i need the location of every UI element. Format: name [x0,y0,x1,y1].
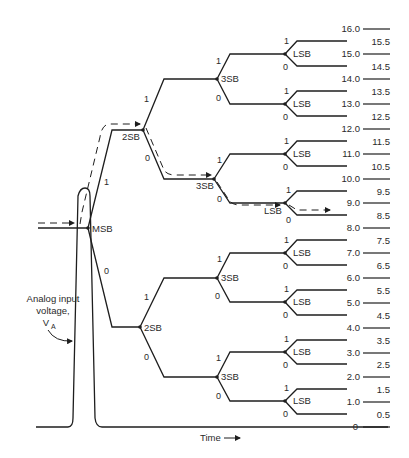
svg-text:1: 1 [284,383,289,393]
svg-text:11.5: 11.5 [372,136,390,147]
branch-labels: 1 0 1 0 1 0 1 0 1 0 1 0 1 0 1 0 1 0 1 0 … [104,36,291,419]
svg-text:9.5: 9.5 [377,186,390,197]
svg-text:1.0: 1.0 [347,396,360,407]
svg-text:1: 1 [284,136,289,146]
svg-text:16.0: 16.0 [342,23,361,34]
svg-text:13.5: 13.5 [372,86,391,97]
svg-text:0: 0 [283,360,288,370]
lsb-label: LSB [293,48,311,59]
svg-text:11.0: 11.0 [342,148,360,159]
svg-text:0: 0 [283,409,288,419]
svg-text:15.0: 15.0 [342,48,361,59]
node-dots [86,52,287,403]
svg-text:6.5: 6.5 [377,260,390,271]
svg-text:0: 0 [283,62,288,72]
svg-text:0.5: 0.5 [377,409,390,420]
lsb-label: LSB [293,148,311,159]
svg-text:0: 0 [286,215,291,225]
svg-text:0: 0 [283,112,288,122]
svg-text:1: 1 [284,36,289,46]
svg-text:voltage,: voltage, [36,305,69,316]
svg-text:1: 1 [216,56,221,66]
svg-text:7.5: 7.5 [377,235,390,246]
time-axis-label: Time [200,432,240,443]
svg-text:1: 1 [217,254,222,264]
svg-text:1: 1 [286,185,291,195]
lsb-label: LSB [293,296,311,307]
svg-text:0: 0 [353,421,358,432]
svg-text:0: 0 [216,93,221,103]
svg-text:8.0: 8.0 [347,222,360,233]
voltage-scale-integers: 16.0 15.0 14.0 13.0 12.0 11.0 10.0 9.0 8… [342,23,391,432]
svg-text:1: 1 [284,334,289,344]
msb-label: MSB [92,223,113,234]
svg-text:3.5: 3.5 [377,335,390,346]
svg-text:0: 0 [217,194,222,204]
svg-text:0: 0 [283,162,288,172]
lsb-label: LSB [293,247,311,258]
svg-text:0: 0 [104,266,109,276]
svg-text:1: 1 [284,86,289,96]
svg-text:0: 0 [145,153,150,163]
svg-text:4.0: 4.0 [347,322,360,333]
svg-text:4.5: 4.5 [377,310,390,321]
svg-text:1: 1 [144,292,149,302]
svg-text:15.5: 15.5 [372,36,391,47]
svg-text:0: 0 [144,352,149,362]
svg-text:0: 0 [283,310,288,320]
svg-text:12.5: 12.5 [372,111,391,122]
lsb-label: LSB [264,205,282,216]
lsb-label: LSB [293,98,311,109]
3sb-label: 3SB [221,73,239,84]
svg-text:2.0: 2.0 [347,371,360,382]
svg-text:1: 1 [284,284,289,294]
2sb-upper-label: 2SB [122,131,140,142]
svg-text:14.5: 14.5 [372,61,391,72]
svg-text:10.0: 10.0 [342,173,361,184]
svg-text:V: V [43,317,50,328]
svg-text:1: 1 [217,155,222,165]
svg-text:12.0: 12.0 [342,123,361,134]
svg-text:1: 1 [144,94,149,104]
svg-text:3.0: 3.0 [347,347,360,358]
svg-text:5.0: 5.0 [347,297,360,308]
svg-text:5.5: 5.5 [377,285,390,296]
svg-text:Time: Time [200,432,221,443]
svg-text:A: A [51,323,56,330]
svg-text:8.5: 8.5 [377,210,390,221]
svg-text:1.5: 1.5 [377,384,390,395]
3sb-label: 3SB [196,180,214,191]
3sb-label: 3SB [221,272,239,283]
svg-text:6.0: 6.0 [347,272,360,283]
svg-text:Analog input: Analog input [27,293,80,304]
svg-text:1: 1 [104,177,109,187]
svg-text:2.5: 2.5 [377,359,390,370]
svg-text:1: 1 [284,235,289,245]
analog-input-annotation: Analog input voltage, V A [27,293,80,341]
svg-text:13.0: 13.0 [342,98,361,109]
svg-text:7.0: 7.0 [347,247,360,258]
svg-text:14.0: 14.0 [342,73,361,84]
svg-text:10.5: 10.5 [372,161,391,172]
adc-decision-tree-diagram: MSB 2SB 2SB 3SB 3SB 3SB 3SB LSB LSB LSB … [0,0,409,458]
svg-text:0: 0 [283,261,288,271]
svg-text:0: 0 [216,391,221,401]
lsb-label: LSB [293,346,311,357]
3sb-label: 3SB [221,371,239,382]
lsb-label: LSB [293,395,311,406]
svg-text:9.0: 9.0 [347,197,360,208]
2sb-lower-label: 2SB [144,322,162,333]
svg-text:0: 0 [215,291,220,301]
svg-text:1: 1 [216,353,221,363]
